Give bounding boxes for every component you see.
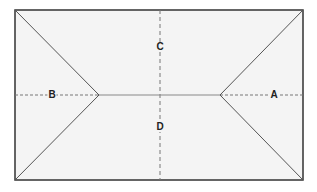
label-c: C bbox=[155, 42, 164, 52]
roof-plan-diagram: A B C D bbox=[0, 0, 317, 192]
label-d: D bbox=[155, 122, 164, 132]
label-a: A bbox=[269, 90, 278, 100]
label-b: B bbox=[47, 90, 56, 100]
